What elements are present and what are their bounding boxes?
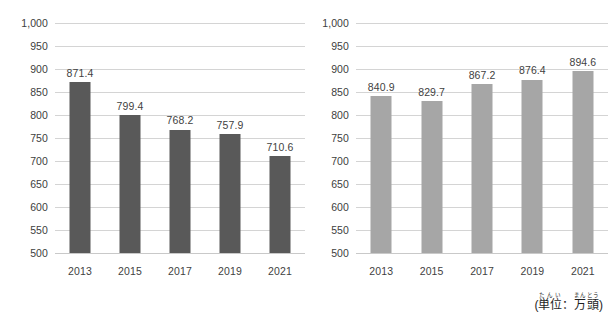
y-axis-tick-label: 1,000 <box>322 18 349 29</box>
unit-term-mantou-base: 万頭 <box>574 298 599 312</box>
bar-value-label: 876.4 <box>519 65 546 76</box>
unit-term-mantou: 万頭まんとう <box>574 298 599 312</box>
bar-value-label: 757.9 <box>217 120 244 131</box>
y-axis-tick-label: 1,000 <box>21 18 48 29</box>
right-chart-plot-area: 1,000 950 900 850 800 750 700 650 600 55… <box>356 23 608 253</box>
y-axis-tick-label: 700 <box>331 156 349 167</box>
x-axis-tick-label: 2021 <box>255 253 305 277</box>
bar-value-label: 799.4 <box>117 101 144 112</box>
bar-slot: 799.4 <box>105 23 155 253</box>
y-axis-tick-label: 800 <box>331 110 349 121</box>
bar-value-label: 768.2 <box>167 115 194 126</box>
unit-term-tani-ruby: たんい <box>538 292 562 298</box>
x-axis-tick-label: 2015 <box>105 253 155 277</box>
x-axis-tick-label: 2019 <box>205 253 255 277</box>
right-bar-chart: 1,000 950 900 850 800 750 700 650 600 55… <box>306 0 613 317</box>
y-axis-tick-label: 900 <box>331 64 349 75</box>
unit-term-tani-base: 単位 <box>538 298 562 312</box>
x-axis-tick-label: 2013 <box>55 253 105 277</box>
close-paren: ) <box>599 298 603 312</box>
y-axis-tick-label: 950 <box>30 41 48 52</box>
right-chart-x-axis: 2013 2015 2017 2019 2021 <box>356 253 608 277</box>
y-axis-tick-label: 850 <box>331 87 349 98</box>
bar-slot: 840.9 <box>356 23 406 253</box>
x-axis-tick-label: 2021 <box>558 253 608 277</box>
y-axis-tick-label: 750 <box>30 133 48 144</box>
bar-value-label: 840.9 <box>368 82 395 93</box>
y-axis-tick-label: 550 <box>30 225 48 236</box>
y-axis-tick-label: 900 <box>30 64 48 75</box>
unit-separator: ： <box>562 298 574 312</box>
bar[interactable] <box>572 71 593 253</box>
unit-term-mantou-ruby: まんとう <box>574 292 599 298</box>
bar-value-label: 871.4 <box>67 68 94 79</box>
x-axis-tick-label: 2013 <box>356 253 406 277</box>
left-chart-bars: 871.4 799.4 768.2 757.9 710.6 <box>55 23 305 253</box>
bar[interactable] <box>371 96 392 253</box>
bar-slot: 829.7 <box>406 23 456 253</box>
bar-slot: 876.4 <box>507 23 557 253</box>
y-axis-tick-label: 650 <box>331 179 349 190</box>
bar[interactable] <box>522 80 543 253</box>
y-axis-tick-label: 600 <box>30 202 48 213</box>
bar[interactable] <box>120 115 141 253</box>
unit-annotation: (単位たんい：万頭まんとう) <box>534 292 603 311</box>
right-chart-bars: 840.9 829.7 867.2 876.4 894.6 <box>356 23 608 253</box>
y-axis-tick-label: 700 <box>30 156 48 167</box>
bar[interactable] <box>170 130 191 253</box>
x-axis-tick-label: 2015 <box>406 253 456 277</box>
bar-slot: 757.9 <box>205 23 255 253</box>
x-axis-tick-label: 2017 <box>457 253 507 277</box>
bar-slot: 871.4 <box>55 23 105 253</box>
bar[interactable] <box>70 82 91 253</box>
bar-value-label: 894.6 <box>569 57 596 68</box>
y-axis-tick-label: 500 <box>30 248 48 259</box>
bar[interactable] <box>220 134 241 253</box>
bar-slot: 768.2 <box>155 23 205 253</box>
bar-value-label: 829.7 <box>418 87 445 98</box>
left-chart-x-axis: 2013 2015 2017 2019 2021 <box>55 253 305 277</box>
bar-value-label: 867.2 <box>469 70 496 81</box>
y-axis-tick-label: 600 <box>331 202 349 213</box>
x-axis-tick-label: 2019 <box>507 253 557 277</box>
y-axis-tick-label: 850 <box>30 87 48 98</box>
bar-slot: 710.6 <box>255 23 305 253</box>
y-axis-tick-label: 500 <box>331 248 349 259</box>
y-axis-tick-label: 800 <box>30 110 48 121</box>
chart-pair-container: 1,000 950 900 850 800 750 700 650 600 55… <box>0 0 613 317</box>
bar[interactable] <box>421 101 442 253</box>
bar[interactable] <box>472 84 493 253</box>
bar-slot: 894.6 <box>558 23 608 253</box>
x-axis-tick-label: 2017 <box>155 253 205 277</box>
y-axis-tick-label: 550 <box>331 225 349 236</box>
unit-term-tani: 単位たんい <box>538 298 562 312</box>
left-chart-plot-area: 1,000 950 900 850 800 750 700 650 600 55… <box>55 23 305 253</box>
left-bar-chart: 1,000 950 900 850 800 750 700 650 600 55… <box>0 0 306 317</box>
y-axis-tick-label: 650 <box>30 179 48 190</box>
y-axis-tick-label: 950 <box>331 41 349 52</box>
bar-value-label: 710.6 <box>267 142 294 153</box>
bar-slot: 867.2 <box>457 23 507 253</box>
y-axis-tick-label: 750 <box>331 133 349 144</box>
bar[interactable] <box>270 156 291 253</box>
